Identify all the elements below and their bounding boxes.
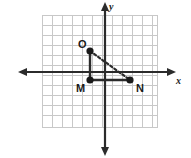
point-m bbox=[86, 76, 93, 83]
coordinate-plane-figure: x y O M N bbox=[0, 0, 191, 158]
point-n bbox=[126, 76, 133, 83]
x-axis-label: x bbox=[175, 75, 181, 86]
point-label-o: O bbox=[78, 38, 87, 50]
x-axis-arrow-right bbox=[167, 68, 176, 76]
point-o bbox=[86, 47, 93, 54]
coordinate-plane-svg: x y O M N bbox=[0, 0, 191, 158]
y-axis-arrow-up bbox=[101, 2, 109, 11]
y-axis-arrow-down bbox=[101, 147, 109, 156]
y-axis-label: y bbox=[108, 1, 114, 12]
point-label-n: N bbox=[136, 82, 144, 94]
x-axis-arrow-left bbox=[18, 68, 27, 76]
point-label-m: M bbox=[76, 82, 85, 94]
